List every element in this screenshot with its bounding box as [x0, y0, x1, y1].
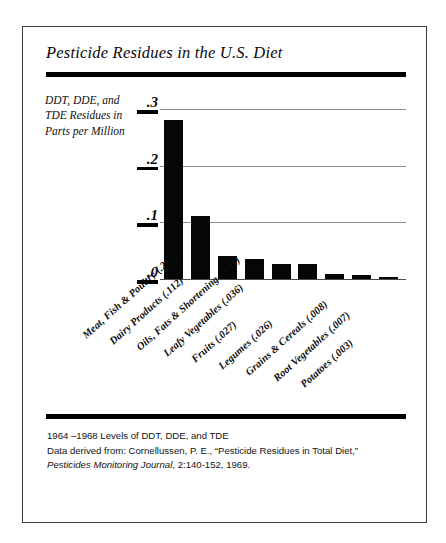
plot-area: .0.1.2.3 — [160, 109, 406, 305]
bar — [352, 275, 371, 279]
y-axis-tick-rule — [137, 223, 158, 227]
y-axis-caption: DDT, DDE, and TDE Residues in Parts per … — [45, 93, 140, 139]
y-axis-tick-rule — [137, 110, 158, 114]
bar — [379, 277, 398, 279]
bar — [245, 259, 264, 279]
footnote: 1964 –1968 Levels of DDT, DDE, and TDE D… — [47, 429, 415, 473]
y-axis-tick-label: .3 — [137, 96, 158, 109]
footnote-line-3: Pesticides Monitoring Journal, 2:140-152… — [47, 458, 415, 473]
bar — [272, 264, 291, 279]
figure-frame: Pesticide Residues in the U.S. Diet DDT,… — [22, 26, 427, 523]
footnote-line-2: Data derived from: Cornellussen, P. E., … — [47, 444, 415, 459]
x-axis-baseline — [160, 279, 406, 280]
x-axis-category-labels: Meat, Fish & Poultry (.281)Dairy Product… — [23, 305, 413, 410]
y-axis-tick: .1 — [137, 209, 158, 227]
y-axis-tick-rule — [137, 167, 158, 171]
y-axis-tick: .2 — [137, 153, 158, 171]
title-divider-rule — [46, 72, 406, 77]
y-axis-tick: .3 — [137, 96, 158, 114]
bar-series — [160, 109, 406, 279]
y-axis-tick-label: .2 — [137, 153, 158, 166]
journal-name: Pesticides Monitoring Journal — [47, 459, 172, 470]
page-title: Pesticide Residues in the U.S. Diet — [46, 43, 283, 63]
y-axis-tick-label: .1 — [137, 209, 158, 222]
bar — [191, 216, 210, 279]
journal-citation: , 2:140-152, 1969. — [172, 459, 250, 470]
bar — [298, 264, 317, 279]
footnote-line-1: 1964 –1968 Levels of DDT, DDE, and TDE — [47, 429, 415, 444]
footnote-divider-rule — [46, 414, 406, 419]
bar — [325, 274, 344, 279]
